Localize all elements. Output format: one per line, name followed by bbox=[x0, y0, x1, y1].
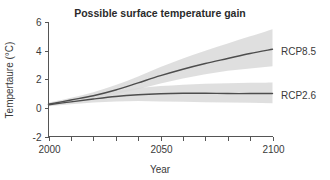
chart-container: Possible surface temperature gain Temper… bbox=[0, 0, 330, 180]
x-tick-label: 2100 bbox=[262, 144, 285, 155]
series-label-rcp85: RCP8.5 bbox=[281, 46, 316, 57]
uncertainty-bands bbox=[49, 29, 273, 106]
x-axis-title: Year bbox=[150, 164, 171, 175]
x-tick-label: 2000 bbox=[38, 144, 61, 155]
y-tick-label: -2 bbox=[33, 132, 42, 143]
y-tick-label: 4 bbox=[36, 46, 42, 57]
y-tick-label: 2 bbox=[36, 74, 42, 85]
x-tick-label: 2050 bbox=[150, 144, 173, 155]
y-axis-title: Tempertaure (°C) bbox=[4, 42, 15, 119]
y-axis-ticks: -20246 bbox=[33, 17, 49, 143]
temperature-projection-chart: Possible surface temperature gain Temper… bbox=[0, 0, 330, 180]
x-axis-ticks: 200020502100 bbox=[38, 137, 285, 155]
y-tick-label: 6 bbox=[36, 17, 42, 28]
chart-title: Possible surface temperature gain bbox=[74, 7, 246, 19]
series-label-rcp26: RCP2.6 bbox=[281, 90, 316, 101]
y-tick-label: 0 bbox=[36, 103, 42, 114]
